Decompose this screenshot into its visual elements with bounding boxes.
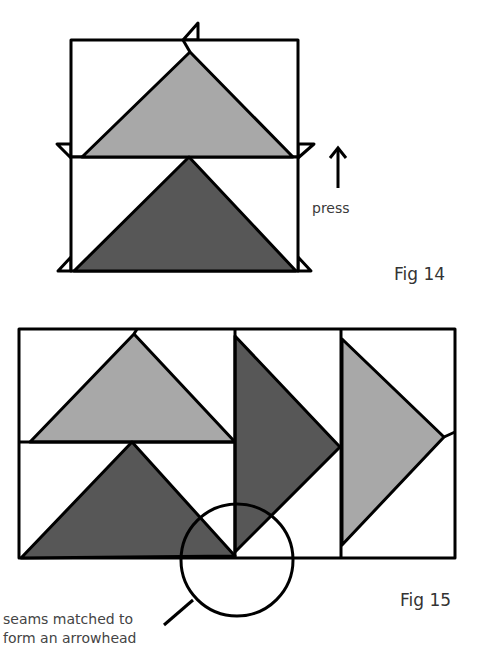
callout-leader-line	[164, 600, 193, 625]
seam-callout-text: seams matched to form an arrowhead	[3, 610, 137, 648]
callout-line-2: form an arrowhead	[3, 629, 137, 648]
dog-ear-right-mid	[298, 144, 314, 158]
quilt-diagram	[0, 0, 482, 661]
dog-ear-bottom-left	[58, 257, 71, 271]
dog-ear-left-mid	[57, 144, 71, 158]
press-label: press	[312, 200, 350, 216]
dog-ear-bottom-right	[298, 257, 311, 271]
arrow-up-icon	[330, 148, 346, 188]
callout-line-1: seams matched to	[3, 610, 137, 629]
fig15-diagram	[19, 329, 455, 625]
fig14-caption: Fig 14	[394, 264, 445, 284]
fig15-caption: Fig 15	[400, 590, 451, 610]
fig14-diagram	[57, 23, 314, 271]
dog-ear-top	[183, 23, 198, 40]
